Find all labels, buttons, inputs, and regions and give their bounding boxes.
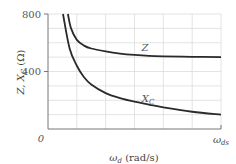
- series-label-z: Z: [141, 42, 150, 53]
- x-axis-label: ωd (rad/s): [109, 152, 158, 164]
- x-end-label: ωds: [213, 134, 230, 147]
- y-tick-label-800: 800: [22, 9, 41, 20]
- impedance-chart: 800 400 0 Z, XC (Ω) ωd (rad/s) ωds Z XC: [0, 0, 236, 164]
- y-axis-label: Z, XC (Ω): [15, 49, 28, 95]
- origin-label: 0: [38, 133, 45, 144]
